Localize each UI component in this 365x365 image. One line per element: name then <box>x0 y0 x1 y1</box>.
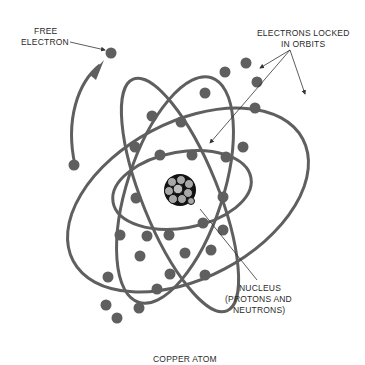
free-electron <box>106 48 117 59</box>
diagram-title: COPPER ATOM <box>153 354 217 364</box>
free-electron-arrowhead <box>90 60 104 80</box>
label-nucleus-1: NUCLEUS <box>239 283 281 293</box>
free-electron-path <box>72 60 104 165</box>
label-free-electron-2: ELECTRON <box>21 37 69 47</box>
label-nucleus-2: (PROTONS AND <box>225 294 292 304</box>
label-orbits-2: IN ORBITS <box>281 39 325 49</box>
label-free-electron-1: FREE <box>34 26 58 36</box>
nucleus <box>164 174 196 206</box>
label-nucleus-3: NEUTRONS) <box>233 305 285 315</box>
copper-atom-diagram: FREE ELECTRON ELECTRONS LOCKED IN ORBITS… <box>0 0 365 365</box>
leader-lines <box>70 42 305 280</box>
label-orbits-1: ELECTRONS LOCKED <box>257 28 349 38</box>
